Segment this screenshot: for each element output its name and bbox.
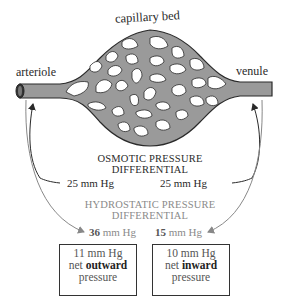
osmotic-left-value: 25 mm Hg (67, 177, 114, 189)
net-outward-direction: outward (86, 259, 128, 271)
hydrostatic-left-value: 36 mm Hg (89, 226, 136, 238)
hydrostatic-right-unit: mm Hg (166, 226, 202, 238)
osmotic-title-line2: DIFFERENTIAL (95, 164, 205, 175)
osmotic-right-value: 25 mm Hg (160, 177, 207, 189)
hydrostatic-left-number: 36 (89, 226, 100, 238)
arteriole-label: arteriole (16, 65, 56, 80)
hydrostatic-right-number: 15 (155, 226, 166, 238)
hydrostatic-title-line1: HYDROSTATIC PRESSURE (80, 199, 220, 210)
net-inward-value: 10 mm Hg (153, 247, 229, 259)
osmotic-title: OSMOTIC PRESSURE DIFFERENTIAL (95, 153, 205, 175)
osmotic-title-line1: OSMOTIC PRESSURE (95, 153, 205, 164)
net-outward-prefix: net (69, 259, 86, 271)
hydrostatic-title: HYDROSTATIC PRESSURE DIFFERENTIAL (80, 199, 220, 221)
hydrostatic-left-unit: mm Hg (100, 226, 136, 238)
capillary-bed-shape (16, 30, 272, 146)
net-inward-direction: inward (182, 259, 217, 271)
net-outward-suffix: pressure (60, 271, 136, 283)
net-inward-box: 10 mm Hg net inward pressure (152, 244, 230, 296)
venule-label: venule (236, 64, 268, 79)
hydrostatic-title-line2: DIFFERENTIAL (80, 210, 220, 221)
net-inward-suffix: pressure (153, 271, 229, 283)
hydrostatic-right-value: 15 mm Hg (155, 226, 202, 238)
net-inward-prefix: net (165, 259, 182, 271)
net-outward-box: 11 mm Hg net outward pressure (59, 244, 137, 296)
net-outward-value: 11 mm Hg (60, 247, 136, 259)
osmotic-arrow-left (30, 104, 40, 178)
